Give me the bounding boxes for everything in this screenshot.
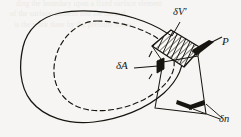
volume-element-label: δV': [173, 7, 187, 18]
area-element-label: δA: [116, 60, 128, 71]
pressure-vector-label: P: [222, 36, 229, 47]
figure-root: ding the boundary upon a fixed surface e…: [0, 0, 241, 137]
normal-displacement-label: δn: [219, 114, 229, 125]
area-element-leader: [134, 51, 164, 79]
normal-displacement-dimension: [176, 100, 222, 119]
